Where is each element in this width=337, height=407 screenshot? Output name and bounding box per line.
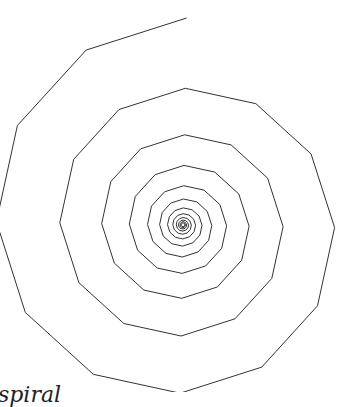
spiral-line bbox=[0, 18, 335, 392]
caption-text: spiral bbox=[0, 384, 61, 406]
